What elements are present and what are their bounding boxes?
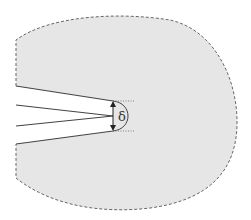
crack-opening [16,105,113,126]
ctod-diagram: δ [0,0,251,220]
delta-label: δ [118,109,126,124]
